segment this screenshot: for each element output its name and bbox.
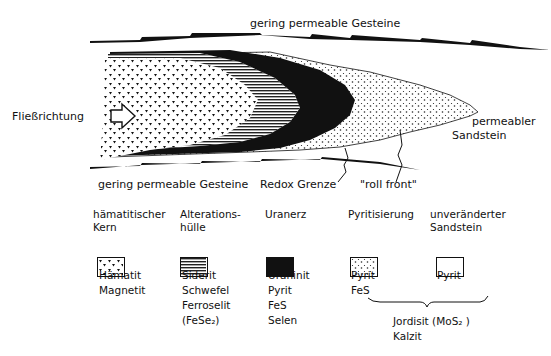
bottom-boundary-line [90,157,420,170]
permeable-label-2: Sandstein [452,129,507,142]
minerals-ore: UraninitPyritFeSSelen [268,268,310,328]
minerals-core: HämatitMagnetit [99,268,145,298]
top-rock-label: gering permeable Gesteine [250,17,400,30]
minerals-pyrite: PyritFeS [351,268,375,298]
legend-head-pyrite: Pyritisierung [348,208,414,221]
legend-head-unaltered: unveränderterSandstein [430,208,506,234]
top-boundary-line [90,33,550,50]
bottom-rock-label: gering permeable Gesteine [98,178,248,191]
legend-head-core: hämatitischerKern [93,208,166,234]
legend-head-alteration: Alterations-hülle [180,208,241,234]
flow-direction-label: Fließrichtung [12,110,84,123]
bracket-note: Jordisit (MoS₂ )Kalzit [393,314,470,344]
legend-head-ore: Uranerz [265,208,306,221]
minerals-unaltered: Pyrit [437,268,461,283]
minerals-alteration: SideritSchwefelFerroselit(FeSe₂) [182,268,230,328]
redox-boundary-label: Redox Grenze [260,178,336,191]
legend-bracket [368,296,488,307]
permeable-label-1: permeabler [472,115,536,128]
roll-front-label: "roll front" [360,178,417,191]
